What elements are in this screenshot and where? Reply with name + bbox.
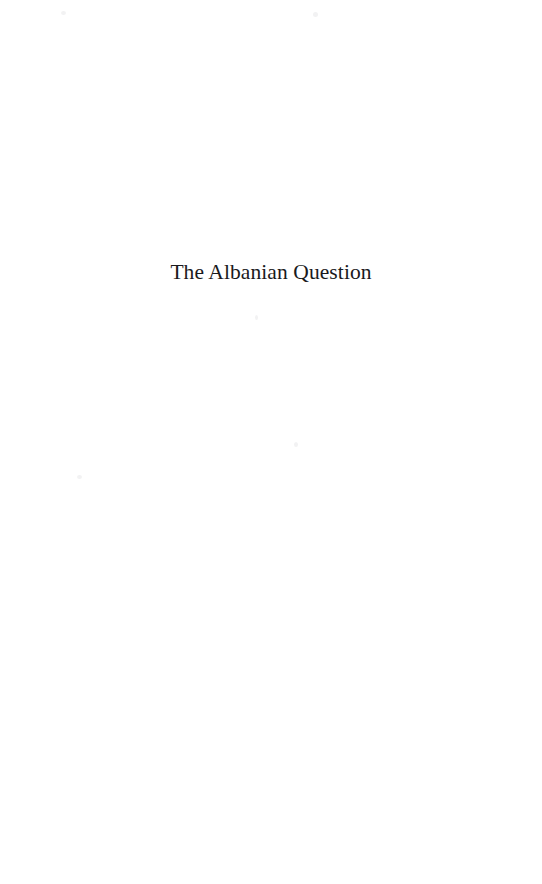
- page-title: The Albanian Question: [170, 260, 371, 285]
- scan-speckle: [313, 12, 318, 17]
- scan-speckle: [294, 442, 298, 447]
- scan-speckle: [255, 315, 258, 320]
- half-title-block: The Albanian Question: [0, 260, 542, 285]
- scan-speckle: [61, 11, 66, 15]
- book-page: The Albanian Question: [0, 0, 542, 884]
- scan-speckle: [77, 475, 82, 479]
